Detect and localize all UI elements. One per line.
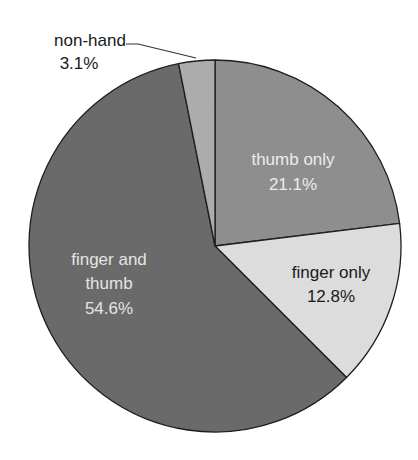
non-hand-value: 3.1%: [60, 54, 99, 73]
non-hand-label: non-hand: [54, 31, 126, 50]
non-hand-leader-line: [126, 44, 196, 58]
finger-and-thumb-label-line1: finger and: [71, 250, 147, 269]
finger-only-label: finger only: [292, 263, 371, 282]
finger-and-thumb-value: 54.6%: [85, 299, 133, 318]
finger-only-value: 12.8%: [307, 287, 355, 306]
thumb-only-value: 21.1%: [269, 175, 317, 194]
pie-slices: [29, 60, 401, 432]
finger-and-thumb-label-line2: thumb: [85, 274, 132, 293]
pie-chart: non-hand 3.1% thumb only 21.1% finger on…: [0, 0, 418, 460]
thumb-only-label: thumb only: [251, 150, 335, 169]
